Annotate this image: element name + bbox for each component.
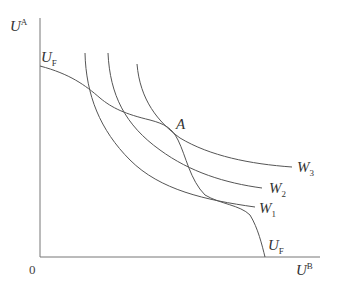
frontier-bottom-label: UF: [268, 238, 284, 256]
w1-label: W1: [259, 201, 276, 219]
x-axis-label: UB: [296, 262, 313, 278]
y-axis-label: UA: [10, 18, 27, 34]
welfare-curve-w3: [137, 64, 292, 167]
diagram-canvas: UA UB 0 UF UF A W1 W2 W3: [0, 0, 337, 288]
point-a-label: A: [176, 117, 185, 132]
origin-label: 0: [29, 262, 36, 278]
diagram-svg: [0, 0, 337, 288]
w3-label: W3: [297, 160, 314, 178]
w2-label: W2: [269, 181, 286, 199]
utility-frontier-curve: [40, 66, 265, 257]
frontier-top-label: UF: [41, 50, 57, 68]
